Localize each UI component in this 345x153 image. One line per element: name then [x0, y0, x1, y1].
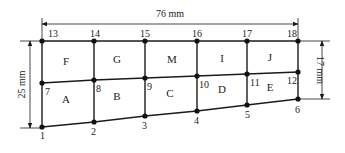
node-number: 10 — [199, 79, 209, 90]
dimension-label-top: 76 mm — [156, 8, 184, 19]
node-number: 8 — [96, 83, 101, 94]
node-number: 11 — [250, 77, 260, 88]
node-point — [295, 38, 300, 43]
element-label: I — [220, 52, 224, 64]
element-label: E — [267, 81, 274, 93]
mesh-edge — [94, 116, 145, 122]
node-number: 3 — [142, 120, 147, 131]
node-number: 6 — [295, 104, 300, 115]
node-point — [142, 38, 147, 43]
mesh-edge — [42, 80, 94, 83]
node-number: 2 — [91, 126, 96, 137]
node-point — [295, 96, 300, 101]
dimension-label-right: 17 mm — [315, 56, 326, 84]
node-number: 1 — [40, 130, 45, 141]
node-point — [142, 113, 147, 118]
node-number: 9 — [147, 81, 152, 92]
node-point — [39, 124, 44, 129]
mesh-edge — [145, 76, 197, 78]
mesh-edge — [42, 122, 94, 127]
node-number: 15 — [140, 28, 150, 39]
mesh-edge — [145, 111, 197, 116]
element-label: D — [218, 83, 226, 95]
dimension-label-left: 25 mm — [16, 70, 27, 98]
element-label: B — [113, 90, 120, 102]
node-point — [194, 73, 199, 78]
mesh-edge — [197, 74, 247, 76]
node-point — [244, 38, 249, 43]
node-point — [295, 69, 300, 74]
dimension-lines: 76 mm25 mm17 mm — [16, 8, 330, 128]
node-number: 17 — [242, 28, 252, 39]
node-number: 18 — [287, 28, 297, 39]
node-number: 7 — [45, 86, 50, 97]
node-point — [194, 38, 199, 43]
node-point — [91, 119, 96, 124]
element-label: J — [268, 51, 273, 63]
mesh-edge — [247, 99, 298, 105]
node-point — [244, 102, 249, 107]
node-number: 5 — [245, 109, 250, 120]
node-point — [39, 80, 44, 85]
node-point — [244, 71, 249, 76]
node-point — [194, 108, 199, 113]
node-point — [91, 77, 96, 82]
mesh-edge — [94, 78, 145, 80]
element-label: F — [63, 55, 69, 67]
node-number: 4 — [194, 115, 199, 126]
element-label: C — [166, 87, 173, 99]
element-label: A — [62, 93, 70, 105]
node-point — [91, 38, 96, 43]
node-number: 14 — [90, 28, 100, 39]
node-number: 13 — [48, 28, 58, 39]
node-number: 16 — [192, 28, 202, 39]
element-label: M — [167, 53, 177, 65]
mesh-edge — [197, 105, 247, 111]
node-number: 12 — [287, 75, 297, 86]
element-label: G — [113, 53, 121, 65]
node-point — [39, 38, 44, 43]
node-point — [142, 75, 147, 80]
finite-element-mesh-diagram: 76 mm25 mm17 mm 123456789101112131415161… — [0, 0, 345, 153]
mesh-edge — [247, 72, 298, 74]
